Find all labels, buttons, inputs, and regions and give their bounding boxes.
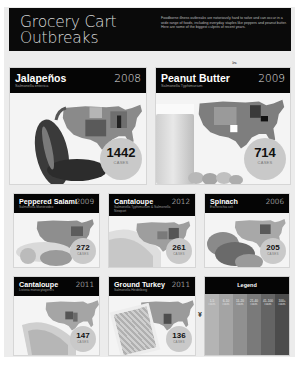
pathogen-name: Salmonella Heidelberg <box>114 289 147 293</box>
pathogen-name: Salmonella enterica <box>15 84 48 88</box>
outbreak-year: 2009 <box>258 72 285 84</box>
peanuts-image <box>186 168 246 185</box>
scissors-icon: ✂ <box>232 59 237 66</box>
cases-label: CASES <box>166 252 192 256</box>
legend: Legend 1-5 cases 6-10 cases 11-20 cases … <box>204 276 290 356</box>
cases-badge: 136 CASES <box>166 326 192 352</box>
card-header: Peppered Salami 2009 Salmonella Montevid… <box>14 194 99 213</box>
outbreak-card-spinach: Spinach 2006 Escherichia coli 205 CASES <box>204 193 290 268</box>
cases-label: CASES <box>70 252 96 256</box>
spinach-image <box>205 226 265 268</box>
jar-lid <box>156 104 194 114</box>
legend-swatch: 1-5 cases <box>205 294 219 355</box>
card-header: Peanut Butter 2009 Salmonella Typhimuriu… <box>156 68 290 93</box>
legend-swatch: 21-40 cases <box>247 294 261 355</box>
legend-unit: cases <box>205 303 219 306</box>
cases-count: 136 <box>166 331 192 340</box>
legend-swatch: 6-10 cases <box>219 294 233 355</box>
pathogen-name: Listeria monocytogenes <box>19 289 54 293</box>
card-header: Jalapeños 2008 Salmonella enterica <box>10 68 146 93</box>
outbreak-card-ground-turkey: Ground Turkey 2011 Salmonella Heidelberg… <box>108 276 196 356</box>
legend-swatch: 11-20 cases <box>233 294 247 355</box>
legend-title: Legend <box>205 277 289 294</box>
outbreak-year: 2008 <box>114 72 141 84</box>
cases-badge: 147 CASES <box>70 326 96 352</box>
legend-unit: cases <box>261 303 275 306</box>
outbreak-year: 2011 <box>76 280 94 289</box>
cases-count: 1442 <box>100 146 142 160</box>
legend-swatch: 100+ cases <box>275 294 289 355</box>
outbreak-year: 2006 <box>266 197 284 206</box>
outbreak-card-cantaloupe-2011: Cantaloupe 2011 Listeria monocytogenes 1… <box>13 276 100 356</box>
pathogen-name: Salmonella Typhimurium & Salmonella Newp… <box>114 206 174 214</box>
pathogen-name: Salmonella Typhimurium <box>161 84 203 88</box>
legend-unit: cases <box>233 303 247 306</box>
card-header: Spinach 2006 Escherichia coli <box>205 194 289 213</box>
salami-image <box>16 238 76 268</box>
cases-label: CASES <box>70 340 96 344</box>
page-title: Grocery Cart Outbreaks <box>20 14 130 46</box>
outbreak-year: 2011 <box>172 280 190 289</box>
cases-badge: 1442 CASES <box>100 138 142 180</box>
pathogen-name: Salmonella Montevideo <box>19 206 53 210</box>
card-header: Cantaloupe 2012 Salmonella Typhimurium &… <box>109 194 195 216</box>
cases-label: CASES <box>260 252 286 256</box>
cases-count: 272 <box>70 243 96 252</box>
header-banner: Grocery Cart Outbreaks Foodborne illness… <box>9 8 291 51</box>
cases-count: 147 <box>70 331 96 340</box>
cases-count: 261 <box>166 243 192 252</box>
jalapeno-image <box>22 98 107 185</box>
cases-badge: 205 CASES <box>260 238 286 264</box>
cases-label: CASES <box>244 160 286 165</box>
food-name: Peanut Butter <box>161 72 230 84</box>
outbreak-card-jalapenos: Jalapeños 2008 Salmonella enterica 1442 … <box>9 67 147 185</box>
outbreak-card-peanut-butter: Peanut Butter 2009 Salmonella Typhimuriu… <box>155 67 291 185</box>
header-description: Foodborne illness outbreaks are notoriou… <box>161 16 289 30</box>
food-name: Jalapeños <box>15 72 66 84</box>
legend-swatch: 41-100 cases <box>261 294 275 355</box>
fold-mark: ¥ <box>198 311 202 318</box>
cases-count: 205 <box>260 243 286 252</box>
cases-badge: 272 CASES <box>70 238 96 264</box>
cases-count: 714 <box>244 146 286 160</box>
cases-badge: 714 CASES <box>244 138 286 180</box>
legend-unit: cases <box>247 303 261 306</box>
cases-label: CASES <box>166 340 192 344</box>
cases-badge: 261 CASES <box>166 238 192 264</box>
legend-unit: cases <box>219 303 233 306</box>
cases-label: CASES <box>100 160 142 165</box>
outbreak-year: 2009 <box>76 197 94 206</box>
outbreak-card-cantaloupe-2012: Cantaloupe 2012 Salmonella Typhimurium &… <box>108 193 196 268</box>
pathogen-name: Escherichia coli <box>210 206 233 210</box>
outbreak-card-peppered-salami: Peppered Salami 2009 Salmonella Montevid… <box>13 193 100 268</box>
outbreak-year: 2012 <box>172 197 190 206</box>
card-header: Cantaloupe 2011 Listeria monocytogenes <box>14 277 99 296</box>
card-header: Ground Turkey 2011 Salmonella Heidelberg <box>109 277 195 296</box>
legend-unit: cases <box>275 303 289 306</box>
legend-swatches: 1-5 cases 6-10 cases 11-20 cases 21-40 c… <box>205 294 289 355</box>
